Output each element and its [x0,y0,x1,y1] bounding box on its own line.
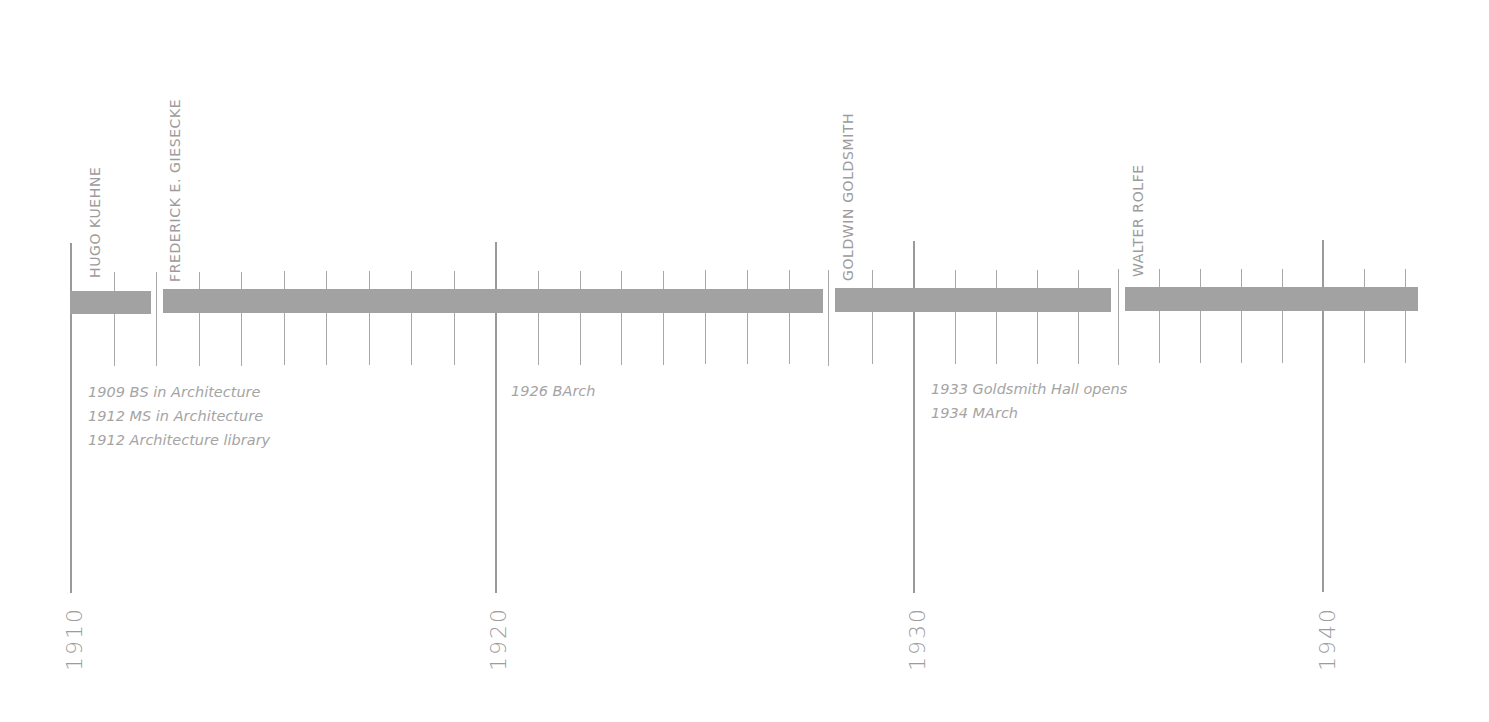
event-1909-bs: 1909 BS in Architecture [88,380,270,404]
year-tick-1924 [663,271,664,365]
year-tick-1922 [580,271,581,365]
year-tick-1915 [284,271,285,365]
events-1910s: 1909 BS in Architecture 1912 MS in Archi… [88,380,270,452]
name-label-kuehne: HUGO KUEHNE [87,167,103,278]
tenure-bar-goldsmith [835,288,1111,312]
tenure-bar-kuehne [70,291,151,314]
name-label-rolfe: WALTER ROLFE [1130,164,1146,277]
year-tick-1914 [241,272,242,366]
year-tick-1938 [1241,269,1242,363]
decade-label-1940: 1940 [1315,607,1340,671]
year-tick-1919 [454,271,455,365]
year-tick-1913 [199,272,200,366]
event-1934-march: 1934 MArch [931,401,1127,425]
decade-label-1930: 1930 [905,607,930,671]
year-tick-1934 [1078,270,1079,364]
year-tick-1911 [114,272,115,366]
year-tick-1941 [1364,269,1365,363]
name-label-giesecke: FREDERICK E. GIESECKE [167,99,183,282]
year-tick-1931 [955,270,956,364]
separator-tick-1928 [828,270,829,366]
year-tick-1942 [1405,269,1406,363]
year-tick-1918 [411,271,412,365]
separator-tick-1935 [1118,269,1119,365]
year-tick-1932 [996,270,997,364]
year-tick-1923 [621,271,622,365]
year-tick-1927 [789,270,790,364]
year-tick-1939 [1282,269,1283,363]
year-tick-1929 [872,270,873,364]
year-tick-1933 [1037,270,1038,364]
timeline-diagram: HUGO KUEHNE FREDERICK E. GIESECKE GOLDWI… [0,0,1489,722]
year-tick-1921 [538,271,539,365]
year-tick-1925 [705,270,706,364]
tenure-bar-rolfe [1125,287,1418,311]
tenure-bar-giesecke [163,289,823,313]
decade-label-1910: 1910 [62,607,87,671]
event-1933-goldsmith-hall: 1933 Goldsmith Hall opens [931,377,1127,401]
year-tick-1926 [747,270,748,364]
event-1912-library: 1912 Architecture library [88,428,270,452]
events-1930s: 1933 Goldsmith Hall opens 1934 MArch [931,377,1127,425]
event-1912-ms: 1912 MS in Architecture [88,404,270,428]
separator-tick-1912 [156,272,157,366]
year-tick-1917 [369,271,370,365]
decade-label-1920: 1920 [486,607,511,671]
year-tick-1936 [1159,269,1160,363]
year-tick-1916 [326,271,327,365]
name-label-goldsmith: GOLDWIN GOLDSMITH [840,113,856,281]
event-1926-barch: 1926 BArch [511,379,596,403]
events-1920s: 1926 BArch [511,379,596,403]
year-tick-1937 [1200,269,1201,363]
